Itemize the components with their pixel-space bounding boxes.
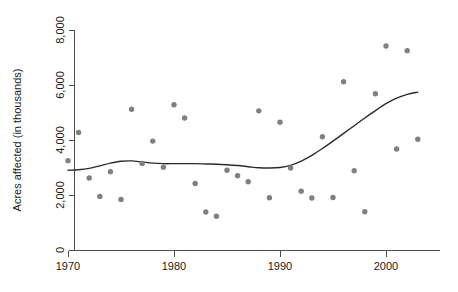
- data-point: [87, 175, 92, 180]
- data-point: [97, 194, 102, 199]
- data-point: [415, 136, 420, 141]
- data-point: [362, 209, 367, 214]
- data-point: [118, 197, 123, 202]
- data-point: [193, 181, 198, 186]
- data-point: [108, 169, 113, 174]
- data-points: [65, 43, 420, 219]
- y-axis-ticks: [69, 31, 75, 251]
- data-point: [235, 173, 240, 178]
- x-tick-label: 2000: [374, 260, 398, 272]
- x-axis-tick-labels: 1970198019902000: [56, 260, 398, 272]
- data-point: [405, 48, 410, 53]
- data-point: [203, 209, 208, 214]
- data-point: [246, 179, 251, 184]
- data-point: [140, 161, 145, 166]
- data-point: [267, 195, 272, 200]
- data-point: [288, 165, 293, 170]
- x-tick-label: 1970: [56, 260, 80, 272]
- data-point: [373, 91, 378, 96]
- data-point: [76, 130, 81, 135]
- data-point: [224, 168, 229, 173]
- data-point: [320, 134, 325, 139]
- data-point: [150, 138, 155, 143]
- data-point: [256, 108, 261, 113]
- y-tick-label: 2,000: [54, 181, 66, 209]
- data-point: [161, 165, 166, 170]
- scatter-plot: 02,0004,0006,0008,000 1970198019902000 A…: [0, 0, 458, 292]
- data-point: [352, 168, 357, 173]
- data-point: [341, 79, 346, 84]
- data-point: [214, 213, 219, 218]
- y-axis-tick-labels: 02,0004,0006,0008,000: [54, 16, 66, 253]
- data-point: [65, 158, 70, 163]
- data-point: [383, 43, 388, 48]
- data-point: [394, 146, 399, 151]
- y-tick-label: 8,000: [54, 16, 66, 44]
- data-point: [330, 195, 335, 200]
- data-point: [277, 119, 282, 124]
- data-point: [309, 195, 314, 200]
- data-point: [129, 107, 134, 112]
- y-tick-label: 6,000: [54, 71, 66, 99]
- x-tick-label: 1990: [268, 260, 292, 272]
- x-axis-ticks: [69, 251, 387, 257]
- data-point: [299, 188, 304, 193]
- y-axis-title: Acres affected (in thousands): [11, 69, 23, 212]
- chart-figure: 02,0004,0006,0008,000 1970198019902000 A…: [0, 0, 458, 292]
- y-tick-label: 4,000: [54, 126, 66, 154]
- data-point: [182, 115, 187, 120]
- lowess-trend-line: [68, 92, 418, 170]
- y-tick-label: 0: [54, 247, 66, 253]
- data-point: [171, 102, 176, 107]
- x-tick-label: 1980: [162, 260, 186, 272]
